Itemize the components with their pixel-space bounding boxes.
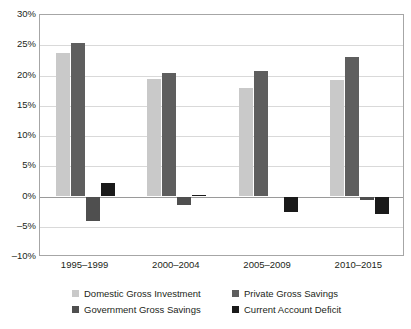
bar [147,79,161,196]
bar [86,197,100,221]
legend-swatch [232,306,239,313]
legend-label: Domestic Gross Investment [84,288,201,299]
bar [375,197,389,215]
bar [345,57,359,196]
x-axis: 1995–19992000–20042005–20092010–2015 [39,259,404,273]
x-axis-tick-label: 1995–1999 [39,259,130,270]
y-axis-tick-label: 15% [2,100,36,110]
x-axis-tick-label: 2005–2009 [222,259,313,270]
bar [360,197,374,200]
y-axis: 30%25%20%15%10%5%0%–5%–10% [0,14,36,256]
legend-row: Government Gross SavingsCurrent Account … [39,304,404,319]
legend-entry: Private Gross Savings [232,288,338,299]
y-axis-tick-label: 5% [2,160,36,170]
legend-entry: Current Account Deficit [232,304,341,315]
bar-chart: 30%25%20%15%10%5%0%–5%–10% 1995–19992000… [0,0,411,329]
bar-group [223,15,314,255]
plot-area [39,14,404,256]
bar [101,183,115,197]
legend-label: Current Account Deficit [244,304,341,315]
bar [192,195,206,197]
y-axis-tick-label: 25% [2,39,36,49]
y-axis-tick-label: 20% [2,70,36,80]
legend-swatch [72,306,79,313]
legend-row: Domestic Gross InvestmentPrivate Gross S… [39,288,404,303]
legend-swatch [72,290,79,297]
bar [330,80,344,197]
y-axis-tick-label: 10% [2,130,36,140]
bar-group [40,15,131,255]
bar [177,197,191,205]
y-axis-tick-label: –10% [2,251,36,261]
legend-swatch [232,290,239,297]
bar-group [131,15,222,255]
x-axis-tick-label: 2010–2015 [313,259,404,270]
y-axis-tick-label: –5% [2,221,36,231]
legend-label: Private Gross Savings [244,288,338,299]
y-axis-tick-label: 0% [2,191,36,201]
legend-label: Government Gross Savings [84,304,201,315]
bar [254,71,268,196]
bar [71,43,85,197]
bar-group [314,15,405,255]
bar [239,88,253,197]
y-axis-tick-label: 30% [2,9,36,19]
legend-entry: Domestic Gross Investment [72,288,201,299]
chart-legend: Domestic Gross InvestmentPrivate Gross S… [39,288,404,322]
bar [284,197,298,212]
bar [162,73,176,196]
legend-entry: Government Gross Savings [72,304,201,315]
bar [56,53,70,197]
x-axis-tick-label: 2000–2004 [130,259,221,270]
